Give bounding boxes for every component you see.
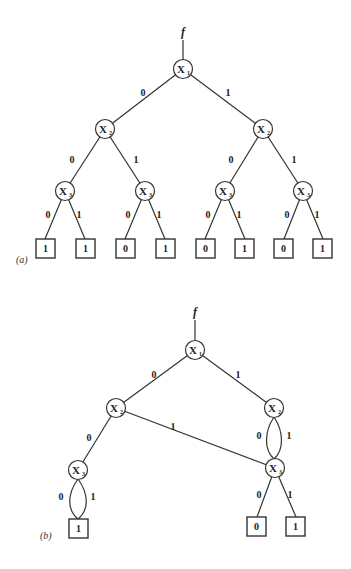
svg-text:X: X — [72, 464, 80, 476]
node-x3-left: X 3 — [69, 461, 88, 480]
svg-text:2: 2 — [120, 409, 123, 415]
leaf: 1 — [156, 239, 175, 258]
edge-label: 0 — [152, 369, 157, 380]
svg-text:X: X — [269, 462, 277, 474]
diagram-b: f 0 1 0 1 0 1 0 1 0 1 X 1 X 2 X 2 X 3 — [40, 305, 305, 542]
node-x3-b: X 3 — [136, 182, 155, 201]
svg-text:X: X — [297, 185, 305, 197]
svg-text:0: 0 — [254, 521, 259, 532]
edge-label: 1 — [134, 154, 139, 165]
node-x3-d: X 3 — [294, 182, 313, 201]
leaf: 1 — [76, 239, 95, 258]
svg-text:X: X — [268, 402, 276, 414]
node-x2-left: X 2 — [96, 120, 115, 139]
edge-label: 0 — [87, 432, 92, 443]
edge-label: 1 — [91, 491, 96, 502]
leaf: 1 — [36, 239, 55, 258]
svg-text:X: X — [59, 185, 67, 197]
edge-label: 0 — [206, 209, 211, 220]
edge-label: 1 — [157, 209, 162, 220]
caption-a: (a) — [16, 254, 28, 266]
svg-text:0: 0 — [203, 243, 208, 254]
svg-text:3: 3 — [229, 192, 232, 198]
svg-text:2: 2 — [267, 130, 270, 136]
edge-x1-1 — [195, 350, 274, 408]
svg-text:X: X — [139, 185, 147, 197]
svg-text:1: 1 — [43, 243, 48, 254]
svg-text:1: 1 — [320, 243, 325, 254]
diagram-a: f 0 1 0 1 0 1 0 1 0 1 0 1 0 1 X 1 X 2 X … — [16, 25, 332, 266]
node-x2-left: X 2 — [107, 399, 126, 418]
edge-x2r-1 — [263, 129, 303, 191]
edge-x1-0 — [105, 69, 183, 129]
edge-label: 0 — [70, 154, 75, 165]
edge-label: 0 — [59, 491, 64, 502]
edge-label: 0 — [257, 430, 262, 441]
edge-label: 1 — [288, 489, 293, 500]
node-x3-c: X 3 — [216, 182, 235, 201]
svg-text:2: 2 — [278, 409, 281, 415]
svg-text:1: 1 — [293, 521, 298, 532]
svg-text:3: 3 — [279, 469, 282, 475]
edge-x1-1 — [183, 69, 263, 129]
function-label: f — [193, 305, 198, 319]
leaf: 0 — [196, 239, 215, 258]
edge-label: 1 — [315, 209, 320, 220]
svg-text:1: 1 — [163, 243, 168, 254]
edge-label: 0 — [141, 87, 146, 98]
edge-label: 0 — [126, 209, 131, 220]
edge-label: 1 — [237, 209, 242, 220]
node-x2-right: X 2 — [265, 399, 284, 418]
edge-x2r-1 — [274, 417, 282, 459]
edge-x2l-1 — [116, 408, 275, 468]
svg-text:1: 1 — [187, 70, 190, 76]
bdd-figure: f 0 1 0 1 0 1 0 1 0 1 0 1 0 1 X 1 X 2 X … — [0, 0, 351, 569]
node-x1: X 1 — [174, 60, 193, 79]
caption-b: (b) — [40, 530, 52, 542]
edge-x3l-1 — [78, 479, 86, 519]
leaf: 1 — [286, 517, 305, 536]
svg-text:3: 3 — [149, 192, 152, 198]
edge-label: 0 — [46, 209, 51, 220]
edge-label: 1 — [77, 209, 82, 220]
svg-text:3: 3 — [69, 192, 72, 198]
edge-x3l-0 — [70, 479, 78, 519]
leaf: 0 — [274, 239, 293, 258]
function-label: f — [181, 25, 186, 39]
leaf: 0 — [247, 517, 266, 536]
svg-text:1: 1 — [199, 351, 202, 357]
edge-x2l-0 — [78, 408, 116, 470]
svg-text:X: X — [257, 123, 265, 135]
svg-text:X: X — [189, 344, 197, 356]
svg-text:1: 1 — [83, 243, 88, 254]
svg-text:X: X — [219, 185, 227, 197]
node-x3-right: X 3 — [266, 459, 285, 478]
svg-text:0: 0 — [123, 243, 128, 254]
edge-x2r-0 — [267, 417, 275, 459]
leaf: 1 — [313, 239, 332, 258]
edge-label: 1 — [171, 421, 176, 432]
edge-label: 1 — [226, 87, 231, 98]
edge-label: 0 — [285, 209, 290, 220]
leaf: 1 — [235, 239, 254, 258]
svg-text:1: 1 — [242, 243, 247, 254]
edge-label: 1 — [287, 430, 292, 441]
node-x2-right: X 2 — [254, 120, 273, 139]
svg-text:0: 0 — [281, 243, 286, 254]
svg-text:X: X — [177, 63, 185, 75]
leaf: 0 — [116, 239, 135, 258]
svg-text:1: 1 — [76, 523, 81, 534]
svg-text:3: 3 — [82, 471, 85, 477]
edge-label: 0 — [229, 154, 234, 165]
svg-text:X: X — [99, 123, 107, 135]
edge-label: 0 — [257, 489, 262, 500]
edge-label: 1 — [292, 154, 297, 165]
edge-label: 1 — [236, 369, 241, 380]
node-x3-a: X 3 — [56, 182, 75, 201]
edge-x2l-1 — [105, 129, 145, 191]
svg-text:3: 3 — [307, 192, 310, 198]
svg-text:2: 2 — [109, 130, 112, 136]
leaf: 1 — [69, 519, 88, 538]
svg-text:X: X — [110, 402, 118, 414]
node-x1: X 1 — [186, 341, 205, 360]
